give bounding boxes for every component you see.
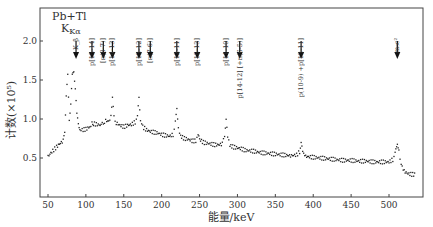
- x-tick-label: 150: [115, 200, 132, 210]
- x-axis-label: 能量/keV: [208, 210, 256, 224]
- x-tick-label: 350: [267, 200, 284, 210]
- transition-label: p[14-12] [+π(6-5)]: [236, 38, 244, 98]
- spectrum-chart: 50100150200250300350400450500 0.51.01.52…: [0, 0, 433, 227]
- y-tick-label: 2.0: [23, 36, 38, 46]
- x-tick-label: 450: [343, 200, 360, 210]
- x-tick-label: 50: [42, 200, 54, 210]
- y-tick-label: 0.5: [23, 153, 38, 163]
- transition-annotations: K_βp[15-14][π(8-7)]p[14-13]p[13-12][π(7-…: [72, 38, 401, 99]
- x-tick-label: 100: [77, 200, 94, 210]
- arrow-head-icon: [73, 52, 79, 59]
- transition-label: p[11-10]: [222, 38, 230, 66]
- x-tick-label: 500: [380, 200, 397, 210]
- title: Pb+Tl: [52, 10, 87, 23]
- x-tick-label: 200: [153, 200, 170, 210]
- transition-label: K_β: [72, 38, 80, 50]
- data-points: [47, 71, 415, 177]
- transition-label: p(10-9) +p[13-11]: [297, 38, 305, 97]
- transition-label: p[14-13]: [108, 38, 116, 66]
- y-tick-label: 1.5: [23, 75, 38, 85]
- x-tick-label: 300: [229, 200, 246, 210]
- transition-label: p[15-13]: [193, 38, 201, 66]
- transition-label: [π(8-7)]: [99, 38, 107, 63]
- y-tick-label: 1.0: [23, 114, 38, 124]
- transition-label: m₀c²: [393, 38, 401, 53]
- transition-label: p[13-12]: [135, 38, 143, 66]
- transition-label: [π(7-6)]: [146, 38, 154, 63]
- x-tick-label: 400: [305, 200, 322, 210]
- transition-label: p[15-14]: [88, 38, 96, 66]
- x-tick-label: 250: [191, 200, 208, 210]
- plot-frame: [40, 8, 423, 197]
- y-axis-label: 计数(×10⁵): [5, 81, 18, 139]
- x-axis: 50100150200250300350400450500: [42, 194, 398, 210]
- transition-label: p[12-11]: [173, 38, 181, 66]
- ka-label: KKα: [61, 22, 81, 36]
